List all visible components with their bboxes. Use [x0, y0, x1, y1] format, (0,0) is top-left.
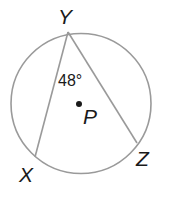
angle-label: 48°	[58, 72, 82, 89]
label-p: P	[83, 105, 97, 128]
chord-yx	[35, 32, 68, 157]
label-y: Y	[58, 5, 74, 28]
label-x: X	[18, 163, 34, 186]
label-z: Z	[135, 147, 150, 170]
inscribed-angle-diagram: Y X Z P 48°	[0, 0, 178, 200]
center-point	[76, 101, 82, 107]
